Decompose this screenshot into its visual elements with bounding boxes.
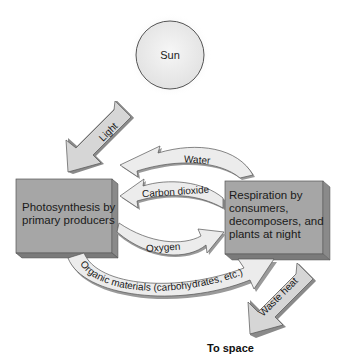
respiration-label-line-3: decomposers, and — [229, 215, 324, 228]
organic-materials-arrow: Organic materials (carbohydrates, etc.) — [68, 253, 277, 299]
respiration-label-line-4: plants at night — [229, 228, 324, 241]
water-label: Water — [184, 153, 212, 166]
sun-node: Sun — [128, 13, 212, 97]
carbon-dioxide-arrow: Carbon dioxide — [120, 179, 225, 210]
sun-label: Sun — [160, 49, 180, 61]
photosynthesis-label-line-1: Photosynthesis by — [22, 201, 115, 214]
photosynthesis-label: Photosynthesis by primary producers — [22, 201, 115, 227]
photosynthesis-label-line-2: primary producers — [22, 214, 115, 227]
water-arrow: Water — [120, 146, 255, 180]
respiration-label: Respiration by consumers, decomposers, a… — [229, 189, 324, 241]
oxygen-arrow: Oxygen — [117, 223, 226, 257]
to-space-label: To space — [207, 342, 254, 354]
ecosystem-diagram: Sun Light Water Carbon dioxide Oxygen — [0, 0, 342, 364]
respiration-label-line-2: consumers, — [229, 202, 324, 215]
respiration-label-line-1: Respiration by — [229, 189, 324, 202]
